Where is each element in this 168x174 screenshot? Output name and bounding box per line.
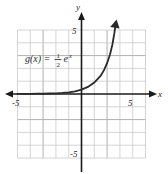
coordinate-plane-svg: -5 5 5 -5 x y g(x) = 1 2 e x xyxy=(0,0,168,174)
x-tick-label-neg5: -5 xyxy=(12,98,20,108)
x-tick-label-pos5: 5 xyxy=(128,98,133,108)
y-tick-label-pos5: 5 xyxy=(72,26,77,36)
exponential-function-graph: -5 5 5 -5 x y g(x) = 1 2 e x xyxy=(0,0,168,174)
chart-background xyxy=(0,0,168,174)
equation-fraction-denominator: 2 xyxy=(57,61,61,69)
y-axis-label: y xyxy=(75,2,80,12)
y-tick-label-neg5: -5 xyxy=(70,149,78,159)
equation-base-e: e xyxy=(64,53,69,64)
x-axis-label: x xyxy=(157,89,162,99)
equation-exponent-x: x xyxy=(68,52,72,59)
equation-left-side: g(x) = xyxy=(25,53,50,65)
equation-fraction-numerator: 1 xyxy=(57,52,61,60)
